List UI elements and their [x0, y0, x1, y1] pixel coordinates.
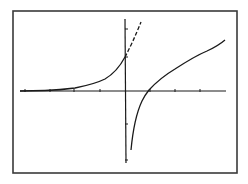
curve-left-branch	[20, 57, 125, 91]
curve-right-branch	[131, 40, 225, 150]
y-axis	[125, 19, 126, 163]
curve-left-branch-dashed	[125, 22, 141, 57]
plot-svg	[0, 0, 248, 184]
graph-screen	[0, 0, 248, 184]
